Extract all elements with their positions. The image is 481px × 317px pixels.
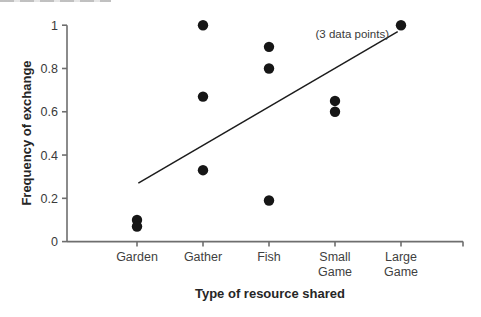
y-tick-label: 0.6: [41, 105, 58, 119]
data-point: [330, 107, 340, 117]
y-axis-ticks: 00.20.40.60.81: [41, 19, 67, 249]
y-tick-label: 0.4: [41, 149, 58, 163]
plot-area: [132, 20, 406, 232]
y-axis-title: Frequency of exchange: [19, 60, 34, 205]
x-category-label: Game: [318, 265, 352, 279]
x-category-label: Small: [319, 250, 350, 264]
x-axis-title: Type of resource shared: [195, 286, 345, 301]
x-category-label: Gather: [184, 250, 222, 264]
data-point: [264, 63, 274, 73]
y-tick-label: 0: [51, 235, 58, 249]
data-point: [264, 195, 274, 205]
data-point: [396, 20, 406, 30]
x-category-label: Game: [384, 265, 418, 279]
annotation-3-data-points: (3 data points): [315, 28, 389, 40]
y-tick-label: 1: [51, 19, 58, 33]
data-point: [198, 20, 208, 30]
data-point: [198, 165, 208, 175]
frequency-of-exchange-chart: 00.20.40.60.81 GardenGatherFishSmallGame…: [0, 0, 481, 317]
x-category-label: Large: [385, 250, 417, 264]
x-category-label: Fish: [257, 250, 281, 264]
trend-line: [138, 32, 397, 183]
x-axis-category-labels: GardenGatherFishSmallGameLargeGame: [116, 250, 418, 279]
data-point: [198, 91, 208, 101]
data-point: [330, 96, 340, 106]
data-point: [132, 221, 142, 231]
scatter-plot-figure: 00.20.40.60.81 GardenGatherFishSmallGame…: [0, 0, 481, 317]
x-category-label: Garden: [116, 250, 158, 264]
y-tick-label: 0.2: [41, 192, 58, 206]
data-point: [264, 42, 274, 52]
y-tick-label: 0.8: [41, 62, 58, 76]
